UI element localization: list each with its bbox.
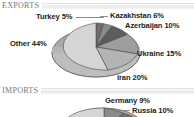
label-russia: Russia 10% — [132, 106, 173, 115]
section-title-imports: IMPORTS — [0, 86, 38, 95]
leader-line-kazakhstan — [100, 16, 108, 17]
leader-line-russia — [121, 110, 130, 111]
section-title-exports: EXPORTS — [0, 1, 39, 10]
header-rule — [42, 3, 194, 9]
leader-line-turkey — [76, 17, 104, 18]
label-azerbaijan: Azerbaijan 10% — [125, 21, 179, 30]
header-rule-imports — [41, 88, 194, 94]
label-germany: Germany 9% — [105, 96, 150, 105]
label-other: Other 44% — [10, 39, 47, 48]
label-iran: Iran 20% — [117, 73, 147, 82]
section-header-imports: IMPORTS — [0, 85, 194, 96]
label-turkey: Turkey 5% — [36, 12, 73, 21]
label-ukraine: Ukraine 15% — [137, 49, 181, 58]
label-kazakhstan: Kazakhstan 6% — [110, 11, 164, 20]
section-header-exports: EXPORTS — [0, 0, 194, 11]
